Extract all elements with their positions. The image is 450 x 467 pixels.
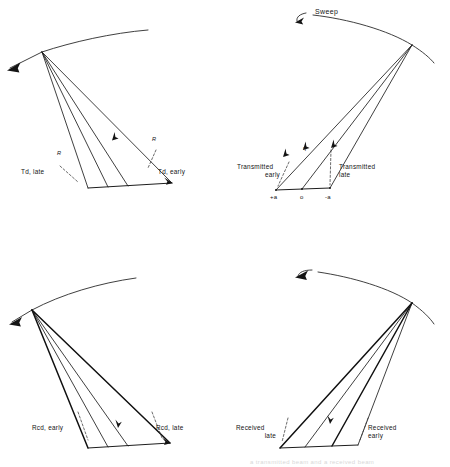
axis-label-plus-a: +a [270, 194, 277, 202]
label-transmitted-early-line2: early [237, 171, 283, 179]
label-rcd-late: Rcd, late [156, 424, 183, 432]
label-transmitted-early: Transmitted early [237, 163, 283, 179]
label-angle-left-tr: η [303, 144, 307, 152]
axis-tick-origin [301, 188, 303, 190]
ray-mid-left-tl [42, 52, 108, 187]
ray-left-tl [42, 52, 88, 188]
label-received-late: Received late [236, 424, 280, 440]
sweep-arrowhead-tr [295, 18, 304, 25]
sweep-arc-tail-tl [10, 52, 42, 68]
sweep-arc-br [318, 272, 412, 303]
label-received-early: Received early [368, 424, 412, 440]
baseline-tl [88, 183, 172, 188]
label-received-late-line1: Received [236, 424, 265, 431]
label-received-early-line2: early [368, 432, 383, 439]
panel-top-left [7, 30, 173, 188]
label-received-early-line1: Received [368, 424, 397, 431]
leader-right-tr [330, 150, 331, 185]
sweep-arc-tl [42, 30, 148, 52]
axis-tick-minus-a [329, 187, 331, 189]
sweep-arc-tail-tr [412, 45, 434, 63]
label-transmitted-late: Transmitted late [339, 163, 387, 179]
baseline-bl [88, 443, 170, 448]
ray-arrowhead-mid-br [327, 416, 333, 425]
panel-bottom-left [9, 278, 171, 448]
sweep-arc-tail-br [412, 303, 434, 324]
ray-arrowhead-left-tr [283, 149, 290, 158]
page-bleed-text: a transmitted beam and a received beam [250, 459, 374, 465]
leader-left-br [282, 418, 288, 442]
label-transmitted-early-line1: Transmitted [237, 163, 273, 170]
label-td-late: Td, late [21, 168, 44, 176]
sweep-arc-tail-bl [12, 310, 32, 322]
baseline-br [280, 445, 358, 448]
label-transmitted-late-line1: Transmitted [339, 163, 375, 170]
sweep-arc-bl [32, 278, 136, 310]
ray-mid-right-tl [42, 52, 128, 186]
sweep-arrowhead-bl [9, 317, 22, 327]
label-rcd-early: Rcd, early [32, 424, 63, 432]
sweep-geometry-figure: R R Td, late Td, early Sweep η Transmitt… [0, 0, 450, 467]
leader-left-tl [60, 166, 78, 182]
ray-right-tl [42, 52, 172, 183]
ray-arrowhead-mid-tl [112, 132, 119, 141]
marker-r-left-tl: R [57, 150, 61, 157]
label-received-late-line2: late [236, 432, 280, 440]
axis-label-minus-a: -a [325, 194, 331, 202]
label-transmitted-late-line2: late [339, 171, 350, 178]
figure-vector-layer [0, 0, 450, 467]
sweep-arc-tr [313, 15, 412, 45]
label-td-early: Td, early [158, 168, 185, 176]
marker-r-right-tl: R [152, 136, 156, 143]
panel-bottom-right [280, 270, 434, 448]
label-sweep: Sweep [315, 8, 338, 17]
axis-label-origin: o [300, 194, 304, 202]
ray-arrowhead-mid-bl [115, 420, 121, 429]
sweep-arrowhead-tl [7, 63, 21, 73]
axis-tick-plus-a [275, 189, 277, 191]
